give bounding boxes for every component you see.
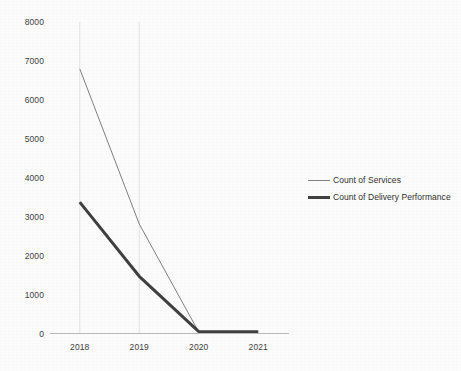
y-tick-label: 1000 <box>0 290 44 300</box>
y-tick-label: 8000 <box>0 17 44 27</box>
legend-item[interactable]: Count of Delivery Performance <box>308 189 458 206</box>
y-tick-label: 2000 <box>0 251 44 261</box>
x-axis: 2018201920202021 <box>50 342 288 360</box>
legend-item[interactable]: Count of Services <box>308 172 458 189</box>
y-tick-label: 6000 <box>0 95 44 105</box>
series-line <box>80 69 259 332</box>
plot-area <box>50 22 288 334</box>
y-tick-label: 5000 <box>0 134 44 144</box>
legend-line-icon <box>308 180 330 181</box>
vertical-gridlines <box>80 22 140 334</box>
data-series <box>80 69 259 332</box>
x-tick-label: 2020 <box>189 342 208 352</box>
series-line <box>80 202 259 331</box>
x-axis-line <box>50 333 289 334</box>
line-chart: 010002000300040005000600070008000 201820… <box>0 0 461 371</box>
legend-line-icon <box>308 196 330 199</box>
y-axis: 010002000300040005000600070008000 <box>0 0 44 371</box>
x-tick-label: 2018 <box>70 342 89 352</box>
series-canvas <box>50 22 288 334</box>
x-tick-label: 2019 <box>130 342 149 352</box>
y-tick-label: 0 <box>0 329 44 339</box>
y-tick-label: 4000 <box>0 173 44 183</box>
legend-label: Count of Services <box>333 175 401 186</box>
legend-label: Count of Delivery Performance <box>333 192 451 203</box>
chart-legend: Count of ServicesCount of Delivery Perfo… <box>308 172 458 206</box>
y-tick-label: 7000 <box>0 56 44 66</box>
x-tick-label: 2021 <box>249 342 268 352</box>
y-tick-label: 3000 <box>0 212 44 222</box>
